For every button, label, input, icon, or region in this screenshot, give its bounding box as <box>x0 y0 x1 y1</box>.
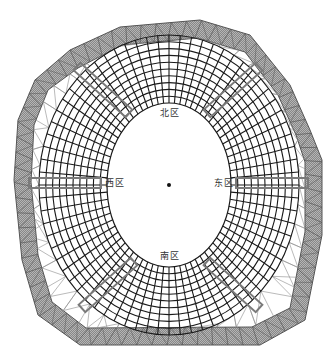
w-rect <box>29 178 101 188</box>
label-south-zone: 南区 <box>160 251 179 261</box>
label-north-zone: 北区 <box>160 108 179 118</box>
stadium-roof-plan-diagram <box>0 0 335 362</box>
label-west-zone: 西区 <box>105 178 124 188</box>
center-point-marker <box>167 183 171 187</box>
label-east-zone: 东区 <box>214 178 233 188</box>
